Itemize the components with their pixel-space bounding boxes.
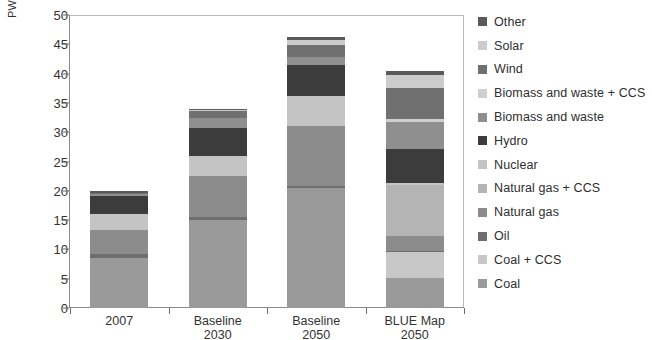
legend-item-label: Natural gas bbox=[494, 205, 559, 219]
bar-segment[interactable] bbox=[386, 149, 444, 183]
bar-segment[interactable] bbox=[90, 258, 148, 308]
bars-container bbox=[70, 15, 464, 308]
stacked-bar[interactable] bbox=[90, 191, 148, 308]
legend-item-label: Biomass and waste + CCS bbox=[494, 86, 645, 100]
bar-segment[interactable] bbox=[386, 122, 444, 150]
legend-swatch-icon bbox=[478, 208, 487, 217]
bar-segment[interactable] bbox=[287, 45, 345, 57]
bar-segment[interactable] bbox=[189, 128, 247, 156]
bar-segment[interactable] bbox=[189, 111, 247, 118]
legend-item-label: Nuclear bbox=[494, 158, 538, 172]
bar-segment[interactable] bbox=[90, 230, 148, 253]
legend-item-label: Natural gas + CCS bbox=[494, 181, 600, 195]
legend-swatch-icon bbox=[478, 113, 487, 122]
y-axis: PWh 05101520253035404550 bbox=[0, 0, 68, 340]
bar-segment[interactable] bbox=[287, 188, 345, 308]
legend-item-label: Hydro bbox=[494, 134, 528, 148]
bar-segment[interactable] bbox=[189, 217, 247, 219]
bar-segment[interactable] bbox=[90, 196, 148, 214]
legend-item-label: Oil bbox=[494, 229, 510, 243]
stacked-bar[interactable] bbox=[386, 71, 444, 308]
x-tick-label: Baseline 2050 bbox=[267, 315, 366, 340]
legend-swatch-icon bbox=[478, 279, 487, 288]
chart-legend: OtherSolarWindBiomass and waste + CCSBio… bbox=[478, 10, 652, 296]
bar-segment[interactable] bbox=[386, 75, 444, 88]
legend-item[interactable]: Solar bbox=[478, 34, 652, 58]
bar-segment[interactable] bbox=[90, 191, 148, 193]
bar-segment[interactable] bbox=[386, 71, 444, 75]
bar-segment[interactable] bbox=[386, 278, 444, 308]
x-tick-label: Baseline 2030 bbox=[169, 315, 268, 340]
legend-item[interactable]: Coal bbox=[478, 272, 652, 296]
bar-segment[interactable] bbox=[386, 236, 444, 251]
legend-swatch-icon bbox=[478, 184, 487, 193]
x-tick-mark bbox=[70, 308, 71, 314]
legend-swatch-icon bbox=[478, 89, 487, 98]
bar-segment[interactable] bbox=[90, 254, 148, 258]
bar-segment[interactable] bbox=[189, 118, 247, 129]
legend-item[interactable]: Other bbox=[478, 10, 652, 34]
bar-segment[interactable] bbox=[287, 186, 345, 188]
bar-segment[interactable] bbox=[189, 156, 247, 176]
legend-item[interactable]: Wind bbox=[478, 58, 652, 82]
legend-item[interactable]: Biomass and waste + CCS bbox=[478, 81, 652, 105]
x-tick-mark bbox=[267, 308, 268, 314]
bar-group bbox=[287, 15, 345, 308]
bar-segment[interactable] bbox=[386, 251, 444, 252]
legend-item[interactable]: Natural gas + CCS bbox=[478, 177, 652, 201]
bar-segment[interactable] bbox=[287, 37, 345, 39]
bar-segment[interactable] bbox=[189, 176, 247, 218]
bar-group bbox=[386, 15, 444, 308]
stacked-bar[interactable] bbox=[189, 109, 247, 308]
bar-group bbox=[189, 15, 247, 308]
legend-item-label: Other bbox=[494, 15, 526, 29]
bar-group bbox=[90, 15, 148, 308]
x-tick-mark bbox=[366, 308, 367, 314]
bar-segment[interactable] bbox=[189, 220, 247, 308]
y-axis-title: PWh bbox=[6, 0, 18, 18]
bar-segment[interactable] bbox=[189, 109, 247, 110]
legend-item-label: Wind bbox=[494, 62, 523, 76]
bar-segment[interactable] bbox=[386, 185, 444, 236]
legend-item[interactable]: Biomass and waste bbox=[478, 105, 652, 129]
legend-swatch-icon bbox=[478, 65, 487, 74]
bar-segment[interactable] bbox=[287, 126, 345, 186]
legend-item-label: Coal + CCS bbox=[494, 253, 561, 267]
x-tick-mark bbox=[169, 308, 170, 314]
legend-item[interactable]: Natural gas bbox=[478, 200, 652, 224]
x-tick-label: BLUE Map 2050 bbox=[366, 315, 465, 340]
bar-segment[interactable] bbox=[189, 109, 247, 110]
bar-segment[interactable] bbox=[287, 65, 345, 96]
legend-item[interactable]: Nuclear bbox=[478, 153, 652, 177]
stacked-bar[interactable] bbox=[287, 37, 345, 308]
bar-segment[interactable] bbox=[90, 214, 148, 230]
bar-segment[interactable] bbox=[386, 119, 444, 122]
bar-segment[interactable] bbox=[386, 252, 444, 277]
bar-segment[interactable] bbox=[386, 183, 444, 185]
stacked-bar-chart: PWh 05101520253035404550 2007Baseline 20… bbox=[0, 0, 652, 340]
legend-item-label: Biomass and waste bbox=[494, 110, 604, 124]
legend-swatch-icon bbox=[478, 232, 487, 241]
x-tick-label: 2007 bbox=[70, 315, 169, 329]
legend-item-label: Coal bbox=[494, 277, 520, 291]
x-tick-mark bbox=[464, 308, 465, 314]
legend-swatch-icon bbox=[478, 41, 487, 50]
legend-item[interactable]: Hydro bbox=[478, 129, 652, 153]
bar-segment[interactable] bbox=[90, 194, 148, 196]
bar-segment[interactable] bbox=[386, 88, 444, 118]
legend-swatch-icon bbox=[478, 160, 487, 169]
legend-swatch-icon bbox=[478, 17, 487, 26]
bar-segment[interactable] bbox=[287, 40, 345, 45]
bar-segment[interactable] bbox=[287, 96, 345, 126]
legend-item[interactable]: Oil bbox=[478, 224, 652, 248]
legend-item[interactable]: Coal + CCS bbox=[478, 248, 652, 272]
legend-swatch-icon bbox=[478, 136, 487, 145]
legend-swatch-icon bbox=[478, 255, 487, 264]
bar-segment[interactable] bbox=[90, 193, 148, 194]
legend-item-label: Solar bbox=[494, 39, 524, 53]
bar-segment[interactable] bbox=[287, 57, 345, 66]
